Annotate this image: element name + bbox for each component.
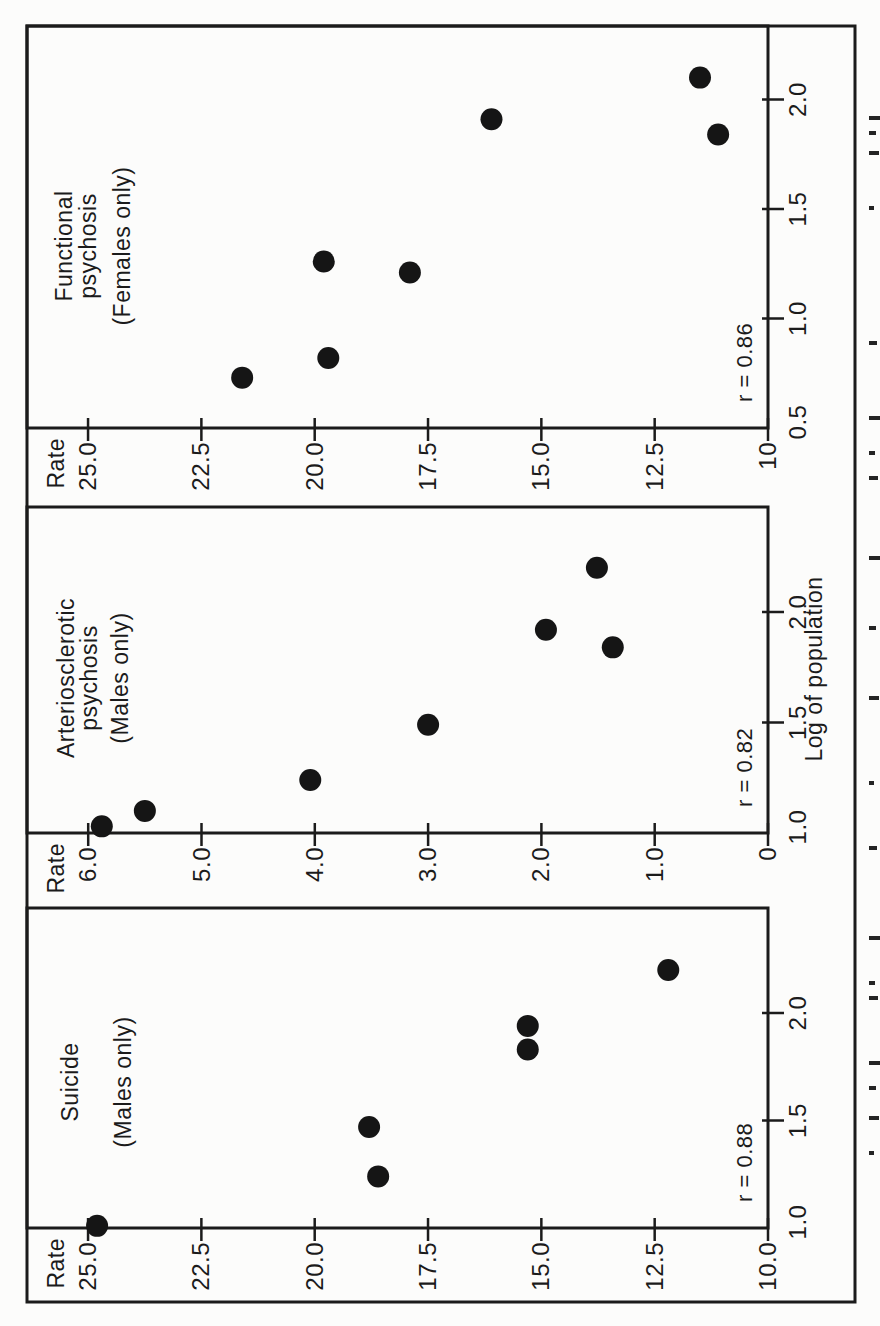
y-tick-label: 10 — [754, 442, 781, 470]
y-tick-label: 20.0 — [301, 442, 328, 491]
x-tick-label: 0.5 — [784, 405, 811, 440]
y-tick-label: 25.0 — [74, 442, 101, 491]
data-point — [299, 769, 321, 791]
x-tick-label: 1.5 — [784, 1103, 811, 1138]
correlation-label: r = 0.86 — [732, 323, 757, 402]
scanned-figure-page: 25.022.520.017.515.012.510.0Rate1.01.52.… — [0, 0, 880, 1326]
y-tick-label: 3.0 — [414, 847, 441, 882]
data-point — [134, 800, 156, 822]
y-tick-label: 22.5 — [187, 1242, 214, 1291]
data-point — [231, 367, 253, 389]
correlation-label: r = 0.88 — [732, 1123, 757, 1202]
data-point — [586, 557, 608, 579]
data-point — [399, 262, 421, 284]
cropped-caption-fragment — [869, 116, 880, 120]
rotated-landscape-figure: 25.022.520.017.515.012.510.0Rate1.01.52.… — [0, 0, 880, 1326]
y-tick-label: 17.5 — [414, 442, 441, 491]
data-point — [689, 67, 711, 89]
x-tick-label: 2.0 — [784, 996, 811, 1031]
x-tick-label: 1.0 — [784, 810, 811, 845]
cropped-caption-fragment — [869, 416, 880, 420]
x-axis-title: Log of population — [801, 577, 827, 762]
plot-box-suicide — [27, 908, 768, 1228]
rate-axis-heading: Rate — [43, 438, 69, 489]
data-point — [358, 1116, 380, 1138]
rate-axis-heading: Rate — [43, 843, 69, 894]
data-point — [517, 1039, 539, 1061]
cropped-caption-fragment — [869, 341, 877, 345]
y-tick-label: 25.0 — [74, 1242, 101, 1291]
y-tick-label: 5.0 — [188, 847, 215, 882]
y-tick-label: 12.5 — [641, 442, 668, 491]
x-tick-label: 1.0 — [784, 301, 811, 336]
cropped-caption-fragment — [869, 131, 876, 135]
cropped-caption-fragment — [869, 206, 874, 210]
y-tick-label: 2.0 — [527, 847, 554, 882]
cropped-caption-fragment — [869, 981, 875, 985]
cropped-caption-fragment — [869, 1151, 874, 1155]
panel-title-line: Functional — [51, 190, 77, 301]
data-point — [317, 347, 339, 369]
correlation-label: r = 0.82 — [732, 728, 757, 807]
figure-frame — [27, 26, 855, 1302]
data-point — [91, 815, 113, 837]
y-tick-label: 17.5 — [414, 1242, 441, 1291]
y-tick-label: 6.0 — [74, 847, 101, 882]
x-tick-label: 1.5 — [784, 192, 811, 227]
scatter-figure-canvas: 25.022.520.017.515.012.510.0Rate1.01.52.… — [0, 0, 880, 1326]
cropped-caption-fragment — [869, 556, 880, 560]
rate-axis-heading: Rate — [43, 1238, 69, 1289]
x-tick-label: 2.0 — [784, 82, 811, 117]
data-point — [707, 124, 729, 146]
cropped-caption-fragment — [869, 936, 880, 940]
data-point — [417, 714, 439, 736]
plot-box-functional-psychosis — [27, 26, 768, 428]
y-tick-label: 22.5 — [187, 442, 214, 491]
panel-title-line: psychosis — [75, 193, 101, 298]
cropped-caption-fragment — [869, 1116, 879, 1120]
y-tick-label: 4.0 — [301, 847, 328, 882]
panel-title-line: psychosis — [76, 625, 102, 730]
panel-title-line: (Males only) — [110, 1016, 136, 1147]
panel-title-line: (Females only) — [109, 166, 135, 325]
cropped-caption-fragment — [869, 696, 879, 700]
data-point — [86, 1215, 108, 1237]
x-tick-label: 1.0 — [784, 1205, 811, 1240]
data-point — [313, 251, 335, 273]
data-point — [367, 1165, 389, 1187]
cropped-caption-fragment — [869, 1086, 876, 1090]
cropped-caption-fragment — [869, 996, 878, 1000]
y-tick-label: 10.0 — [754, 1242, 781, 1291]
data-point — [535, 619, 557, 641]
plot-box-arteriosclerotic-psychosis — [27, 507, 768, 833]
y-tick-label: 20.0 — [301, 1242, 328, 1291]
cropped-caption-fragment — [869, 781, 874, 785]
cropped-caption-fragment — [869, 451, 875, 455]
data-point — [517, 1015, 539, 1037]
data-point — [602, 636, 624, 658]
panel-title-line: Suicide — [57, 1043, 83, 1122]
cropped-caption-fragment — [869, 626, 876, 630]
y-tick-label: 12.5 — [641, 1242, 668, 1291]
panel-title-line: (Males only) — [107, 612, 133, 743]
data-point — [480, 108, 502, 130]
y-tick-label: 0 — [754, 847, 781, 861]
data-point — [657, 959, 679, 981]
cropped-caption-fragment — [869, 846, 877, 850]
y-tick-label: 15.0 — [527, 442, 554, 491]
y-tick-label: 1.0 — [641, 847, 668, 882]
cropped-caption-fragment — [869, 151, 879, 155]
cropped-caption-fragment — [869, 1061, 880, 1065]
y-tick-label: 15.0 — [527, 1242, 554, 1291]
cropped-caption-fragment — [869, 476, 878, 480]
